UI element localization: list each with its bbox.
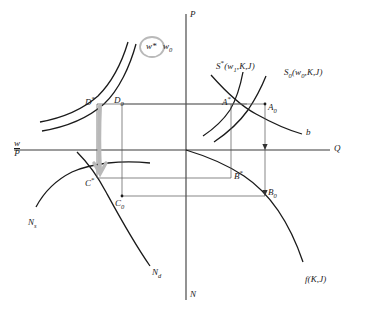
economics-diagram: P N Q w P w* w0 S*(w1,K,J) S0(w0,K,J) b … <box>0 0 370 322</box>
axis-label-n: N <box>190 290 196 299</box>
point-label-a-star: A* <box>222 96 231 107</box>
point-label-b-zero: B0 <box>268 188 277 199</box>
arrowhead-down-a-zero <box>262 144 267 150</box>
supply-zero-args: (w <box>292 67 301 77</box>
labor-demand-curve <box>77 152 150 266</box>
label-w-star: w* <box>146 42 157 51</box>
point-label-b-star: B* <box>234 170 243 181</box>
point-c-zero-mark: 0 <box>121 203 124 210</box>
highlight-arrow-shaft <box>99 106 100 171</box>
point-label-d-zero: D0 <box>114 96 124 107</box>
curve-label-labor-demand: Nd <box>152 268 161 279</box>
supply-star-args-rest: ,K,J) <box>237 61 255 71</box>
point-d-star-mark: * <box>92 95 96 103</box>
production-function-curve <box>186 150 303 262</box>
point-dot-c-zero <box>121 195 124 198</box>
point-d-zero-base: D <box>114 95 121 105</box>
axis-label-q: Q <box>334 144 341 153</box>
curve-label-labor-supply: Ns <box>28 218 37 229</box>
label-w-zero: w0 <box>163 42 172 53</box>
point-dot-a-zero <box>264 103 267 106</box>
curve-label-production-function: f(K,J) <box>305 275 326 284</box>
axis-label-p: P <box>190 10 196 19</box>
real-wage-numerator: w <box>14 139 20 148</box>
label-w-zero-sub: 0 <box>169 46 172 53</box>
point-label-c-star: C* <box>85 177 95 188</box>
curve-label-supply-zero: S0(w0,K,J) <box>284 68 323 79</box>
point-label-a-zero: A0 <box>268 103 277 114</box>
curve-label-supply-star: S*(w1,K,J) <box>216 60 255 73</box>
point-d-zero-mark: 0 <box>121 100 124 107</box>
point-d-star-base: D <box>85 97 92 107</box>
curve-label-demand-b: b <box>306 128 311 137</box>
point-label-d-star: D* <box>85 96 95 107</box>
point-a-zero-mark: 0 <box>274 107 277 114</box>
axis-label-real-wage: w P <box>14 139 20 158</box>
point-b-zero-mark: 0 <box>274 192 277 199</box>
labor-demand-sub: d <box>158 272 161 279</box>
wage-curve-star <box>40 42 128 122</box>
point-a-star-mark: * <box>228 95 232 103</box>
point-label-c-zero: C0 <box>115 199 124 210</box>
real-wage-denominator: P <box>14 148 20 158</box>
supply-zero-args-rest: ,K,J) <box>305 67 323 77</box>
point-c-star-mark: * <box>91 176 95 184</box>
labor-supply-sub: s <box>34 222 37 229</box>
point-b-star-mark: * <box>240 169 244 177</box>
